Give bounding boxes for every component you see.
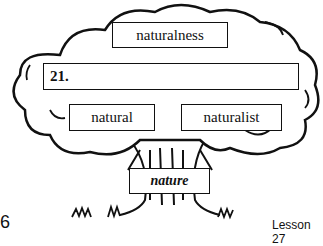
lesson-label: Lesson 27 bbox=[272, 218, 323, 246]
left-word: natural bbox=[91, 109, 133, 126]
root-word-box: nature bbox=[129, 168, 210, 194]
page-number: 6 bbox=[0, 212, 10, 233]
answer-box[interactable]: 21. bbox=[43, 63, 299, 90]
left-word-box: natural bbox=[69, 104, 155, 131]
right-word: naturalist bbox=[204, 109, 260, 126]
right-word-box: naturalist bbox=[181, 104, 282, 131]
top-word-box: naturalness bbox=[112, 22, 228, 48]
top-word: naturalness bbox=[136, 27, 203, 44]
root-word: nature bbox=[150, 173, 188, 189]
question-number: 21. bbox=[50, 68, 69, 85]
